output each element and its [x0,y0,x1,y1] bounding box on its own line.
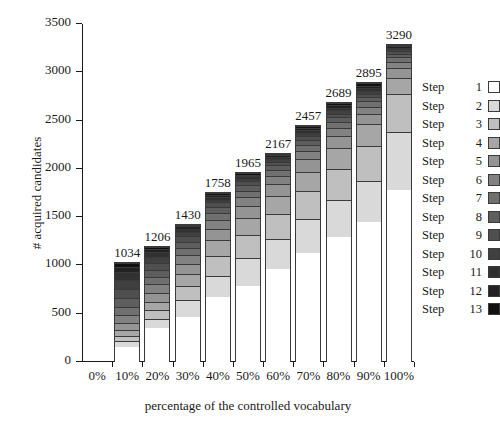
x-tick-label: 60% [266,368,290,383]
bar-segment [357,146,381,180]
bar-total-label: 2689 [326,85,352,100]
y-tick: 1000 [76,264,82,265]
legend-item-number: 5 [466,154,482,168]
legend-swatch-icon [488,248,500,260]
y-tick-label: 1000 [45,255,71,271]
y-tick: 3000 [76,71,82,72]
bar-segment [357,181,381,223]
bar-segment [266,184,290,196]
x-tick [233,362,234,367]
bar-segment [206,256,230,276]
legend-item-label: Step [422,80,466,94]
legend-item[interactable]: Step12 [422,282,500,301]
bar-segment [145,319,169,328]
y-tick-label: 1500 [45,207,71,223]
bar-segment [176,317,200,362]
legend-swatch-icon [488,155,500,167]
x-tick-label: 10% [115,368,139,383]
bar-segment [327,200,351,237]
bar-segment [296,253,320,362]
bar-total-label: 1758 [205,175,231,190]
stacked-bar: 3290 [386,44,412,362]
legend-item[interactable]: Step6 [422,171,500,190]
legend-item[interactable]: Step2 [422,97,500,116]
legend-item[interactable]: Step11 [422,263,500,282]
y-tick-label: 3500 [45,14,71,30]
bar-segment [176,274,200,286]
legend-item[interactable]: Step7 [422,189,500,208]
bar-total-label: 1206 [144,229,170,244]
x-tick-label: 40% [206,368,230,383]
bar-segment [236,206,260,218]
stacked-bar: 2457 [295,125,321,362]
legend-item-number: 4 [466,136,482,150]
y-tick-label: 2500 [45,111,71,127]
legend-item[interactable]: Step3 [422,115,500,134]
stacked-bar: 2895 [356,82,382,362]
legend-swatch-icon [488,266,500,278]
bar-segment [206,297,230,362]
bar-segment [266,239,290,269]
bar-segment [145,277,169,284]
bar-segment [387,132,411,190]
legend-item[interactable]: Step4 [422,134,500,153]
bar-segment [327,136,351,148]
y-tick: 2500 [76,120,82,121]
bar-segment [145,328,169,362]
legend-item-number: 12 [466,284,482,298]
bar-segment [236,258,260,286]
legend-swatch-icon [488,211,500,223]
legend-item-number: 8 [466,210,482,224]
bar-total-label: 3290 [386,27,412,42]
bar-segment [387,78,411,94]
bar-segment [145,302,169,311]
bar-segment [266,176,290,184]
bar-segment [236,218,260,235]
bar-segment [327,128,351,136]
bar-segment [266,269,290,362]
bar-segment [236,235,260,258]
legend-item-label: Step [422,191,466,205]
x-tick-label: 80% [327,368,351,383]
bar-segment [266,196,290,213]
stacked-bar: 1206 [144,246,170,362]
legend-item[interactable]: Step13 [422,300,500,319]
bar-segment [206,213,230,220]
bar-segment [357,114,381,125]
legend-item-label: Step [422,210,466,224]
legend-item-label: Step [422,247,466,261]
bar-total-label: 1965 [235,155,261,170]
y-axis-line [82,24,83,362]
legend-item[interactable]: Step9 [422,226,500,245]
bar-segment [176,300,200,316]
bar-segment [296,219,320,253]
x-tick-label: 70% [296,368,320,383]
bar-segment [296,159,320,172]
bar-segment [387,68,411,78]
legend: Step1Step2Step3Step4Step5Step6Step7Step8… [422,78,500,319]
legend-item-number: 3 [466,117,482,131]
bar-total-label: 1034 [114,245,140,260]
legend-item[interactable]: Step10 [422,245,500,264]
x-tick [323,362,324,367]
legend-item[interactable]: Step1 [422,78,500,97]
stacked-bar: 1758 [205,192,231,362]
x-tick-label: 0% [88,368,105,383]
bar-segment [115,272,139,279]
y-tick-label: 2000 [45,159,71,175]
legend-item[interactable]: Step5 [422,152,500,171]
legend-item[interactable]: Step8 [422,208,500,227]
y-tick: 2000 [76,168,82,169]
bar-segment [115,307,139,315]
bar-segment [357,124,381,146]
x-tick-label: 90% [357,368,381,383]
legend-item-label: Step [422,228,466,242]
bar-segment [357,107,381,114]
stacked-bar: 1034 [114,262,140,362]
bar-segment [145,293,169,302]
legend-swatch-icon [488,303,500,315]
bar-segment [176,255,200,263]
x-tick [173,362,174,367]
bar-segment [176,286,200,300]
